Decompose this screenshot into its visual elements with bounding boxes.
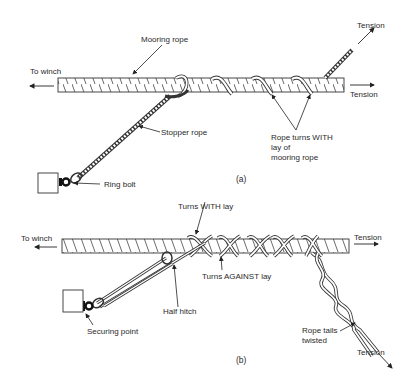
label-mooring-rope: Mooring rope	[141, 35, 188, 44]
label-turns-with-lay-a-1: Rope turns WITH	[271, 133, 333, 142]
securing-point-ring	[86, 303, 93, 310]
ring-bolt-block	[38, 173, 58, 193]
figure-a	[30, 28, 374, 193]
label-to-winch-b: To winch	[21, 234, 52, 243]
figure-b	[35, 202, 392, 368]
label-tension-right-b: Tension	[354, 233, 382, 242]
tension-arrow-up-a	[358, 28, 374, 44]
label-tension-top-a: Tension	[357, 21, 385, 30]
label-turns-with-lay-a-2: lay of	[271, 143, 290, 152]
label-securing-point: Securing point	[87, 327, 138, 336]
ring-bolt	[63, 179, 70, 186]
label-turns-with-lay-a-3: mooring rope	[271, 153, 318, 162]
label-to-winch-a: To winch	[30, 67, 61, 76]
label-rope-tails-2: twisted	[302, 336, 327, 345]
label-rope-tails-1: Rope tails	[302, 326, 338, 335]
label-turns-with-lay-b: Turns WITH lay	[178, 202, 233, 211]
securing-point-block	[63, 290, 83, 312]
rope-stopper-diagram	[0, 0, 411, 390]
caption-a: (a)	[236, 174, 246, 184]
label-tension-right-a: Tension	[350, 90, 378, 99]
label-tension-bottom-b: Tension	[357, 348, 385, 357]
label-stopper-rope: Stopper rope	[161, 128, 207, 137]
caption-b: (b)	[236, 355, 246, 365]
label-half-hitch: Half hitch	[163, 307, 196, 316]
label-turns-against-lay: Turns AGAINST lay	[202, 272, 271, 281]
label-ring-bolt: Ring bolt	[104, 180, 136, 189]
